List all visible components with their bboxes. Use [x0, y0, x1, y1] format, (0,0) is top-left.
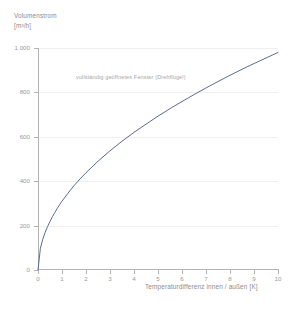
x-axis-label: Temperaturdifferenz innen / außen [K] — [145, 283, 258, 290]
curve-layer — [0, 0, 293, 313]
series-line-volumenstrom — [38, 52, 278, 270]
chart-figure: Volumenstrom [m³/h] 02004006008001.000 0… — [0, 0, 293, 313]
curve-annotation: vollständig geöffnetes Fenster (Drehflüg… — [76, 74, 186, 80]
